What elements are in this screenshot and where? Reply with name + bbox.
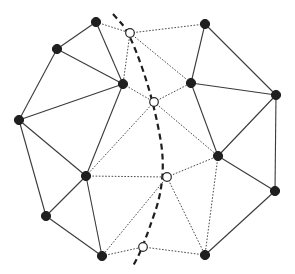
dotted-edge-L-P4 (102, 247, 143, 256)
dotted-edge-P3-H (167, 156, 218, 177)
dotted-edge-I-P3 (86, 176, 167, 177)
dotted-edge-P3-L (102, 177, 167, 256)
filled-vertex-K (41, 211, 50, 220)
filled-vertex-F (14, 115, 23, 124)
solid-edge-D-H (191, 83, 218, 156)
hollow-vertices (126, 29, 172, 252)
dotted-edge-P4-M (143, 247, 205, 255)
solid-edge-B-G (205, 24, 276, 95)
dotted-edge-P2-I (86, 102, 154, 176)
filled-vertex-I (81, 171, 90, 180)
filled-vertex-J (270, 186, 279, 195)
solid-edge-G-H (218, 95, 276, 156)
filled-vertex-M (200, 250, 209, 259)
dotted-edge-A-P1 (96, 22, 130, 33)
solid-edge-G-J (275, 95, 276, 191)
solid-edge-E-I (86, 84, 123, 176)
solid-edge-A-E (96, 22, 123, 84)
solid-edge-H-J (218, 156, 275, 191)
filled-vertex-E (118, 79, 127, 88)
dotted-edge-H-M (205, 156, 218, 255)
dotted-edges (86, 22, 218, 256)
dotted-edge-P1-E (123, 33, 130, 84)
filled-vertex-H (213, 151, 222, 160)
solid-edges (19, 22, 276, 256)
filled-vertex-C (52, 44, 61, 53)
dotted-edge-P3-M (167, 177, 205, 255)
graph-diagram (0, 0, 295, 274)
solid-edge-B-D (191, 24, 205, 83)
dotted-edge-P2-D (154, 83, 191, 102)
hollow-vertex-P1 (126, 29, 135, 38)
solid-edge-I-K (46, 176, 86, 216)
filled-vertex-D (186, 78, 195, 87)
dotted-edge-E-P2 (123, 84, 154, 102)
solid-edge-E-F (19, 84, 123, 120)
solid-edge-A-C (57, 22, 96, 49)
filled-vertex-A (91, 17, 100, 26)
hollow-vertex-P3 (163, 173, 172, 182)
solid-edge-J-M (205, 191, 275, 255)
dashed-cut-curve (113, 14, 163, 266)
hollow-vertex-P2 (150, 98, 159, 107)
hollow-vertex-P4 (139, 243, 148, 252)
dotted-edge-P1-B (130, 24, 205, 33)
filled-vertex-L (97, 251, 106, 260)
solid-edge-C-E (57, 49, 123, 84)
solid-edge-F-K (19, 120, 46, 216)
solid-edge-I-L (86, 176, 102, 256)
solid-edge-K-L (46, 216, 102, 256)
filled-vertex-B (200, 19, 209, 28)
solid-edge-F-I (19, 120, 86, 176)
solid-edge-D-G (191, 83, 276, 95)
filled-vertex-G (271, 90, 280, 99)
